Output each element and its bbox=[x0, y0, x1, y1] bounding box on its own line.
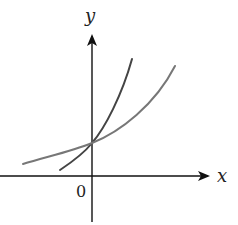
y-axis-label: y bbox=[84, 5, 96, 26]
shallower-exponential-curve bbox=[23, 66, 175, 164]
exponential-graph: y x 0 bbox=[0, 0, 238, 225]
origin-label: 0 bbox=[76, 182, 86, 201]
steeper-exponential-curve bbox=[60, 59, 132, 170]
x-axis-label: x bbox=[217, 165, 227, 186]
